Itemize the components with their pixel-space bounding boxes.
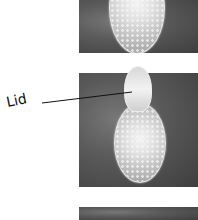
annotation-leader-line xyxy=(0,0,198,220)
